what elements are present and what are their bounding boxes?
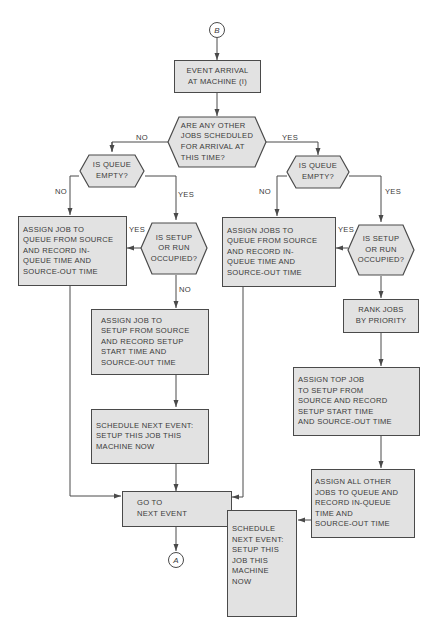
decision-queue-empty-right: IS QUEUE EMPTY? bbox=[286, 155, 350, 189]
decision-other-jobs-text: ARE ANY OTHER JOBS SCHEDULED FOR ARRIVAL… bbox=[181, 121, 253, 163]
node-assign-job-setup-text: ASSIGN JOB TO SETUP FROM SOURCE AND RECO… bbox=[96, 316, 190, 369]
node-assign-jobs-queue-text: ASSIGN JOBS TO QUEUE FROM SOURCE AND REC… bbox=[227, 226, 317, 279]
connector-a-label: A bbox=[173, 556, 178, 565]
label-yes: YES bbox=[338, 225, 354, 234]
decision-setup-left-text: IS SETUP OR RUN OCCUPIED? bbox=[151, 233, 198, 265]
label-no: NO bbox=[259, 187, 271, 196]
node-assign-job-queue-text: ASSIGN JOB TO QUEUE FROM SOURCE AND RECO… bbox=[23, 225, 113, 278]
decision-queue-empty-right-text: IS QUEUE EMPTY? bbox=[299, 161, 337, 182]
node-assign-job-setup: ASSIGN JOB TO SETUP FROM SOURCE AND RECO… bbox=[91, 309, 209, 375]
label-yes: YES bbox=[178, 190, 194, 199]
node-assign-top-job: ASSIGN TOP JOB TO SETUP FROM SOURCE AND … bbox=[293, 367, 420, 436]
connector-b-label: B bbox=[214, 26, 219, 35]
node-event-arrival-text: EVENT ARRIVAL AT MACHINE (I) bbox=[186, 66, 248, 87]
label-no: NO bbox=[179, 285, 191, 294]
node-schedule-right: SCHEDULE NEXT EVENT: SETUP THIS JOB THIS… bbox=[227, 510, 297, 617]
node-schedule-left: SCHEDULE NEXT EVENT: SETUP THIS JOB THIS… bbox=[91, 409, 209, 464]
connector-b: B bbox=[209, 22, 225, 38]
node-event-arrival: EVENT ARRIVAL AT MACHINE (I) bbox=[174, 60, 261, 93]
connector-a: A bbox=[168, 552, 184, 568]
node-assign-jobs-queue: ASSIGN JOBS TO QUEUE FROM SOURCE AND REC… bbox=[222, 217, 336, 287]
node-schedule-right-text: SCHEDULE NEXT EVENT: SETUP THIS JOB THIS… bbox=[232, 524, 284, 588]
label-no: NO bbox=[55, 187, 67, 196]
decision-queue-empty-left-text: IS QUEUE EMPTY? bbox=[93, 160, 131, 181]
node-go-next-event: GO TO NEXT EVENT bbox=[122, 491, 232, 527]
decision-setup-left: IS SETUP OR RUN OCCUPIED? bbox=[140, 222, 208, 275]
node-rank-jobs: RANK JOBS BY PRIORITY bbox=[343, 299, 419, 333]
node-rank-jobs-text: RANK JOBS BY PRIORITY bbox=[356, 305, 407, 326]
node-schedule-left-text: SCHEDULE NEXT EVENT: SETUP THIS JOB THIS… bbox=[96, 421, 193, 453]
decision-other-jobs: ARE ANY OTHER JOBS SCHEDULED FOR ARRIVAL… bbox=[167, 116, 267, 168]
node-go-next-event-text: GO TO NEXT EVENT bbox=[137, 498, 187, 519]
label-yes: YES bbox=[385, 187, 401, 196]
label-yes: YES bbox=[282, 133, 298, 142]
label-no: NO bbox=[136, 133, 148, 142]
decision-setup-right-text: IS SETUP OR RUN OCCUPIED? bbox=[358, 234, 405, 266]
node-assign-all-other: ASSIGN ALL OTHER JOBS TO QUEUE AND RECOR… bbox=[311, 469, 415, 538]
decision-setup-right: IS SETUP OR RUN OCCUPIED? bbox=[347, 224, 415, 276]
label-yes: YES bbox=[129, 225, 145, 234]
decision-queue-empty-left: IS QUEUE EMPTY? bbox=[79, 154, 145, 188]
node-assign-job-queue: ASSIGN JOB TO QUEUE FROM SOURCE AND RECO… bbox=[18, 216, 127, 286]
node-assign-top-job-text: ASSIGN TOP JOB TO SETUP FROM SOURCE AND … bbox=[298, 375, 392, 428]
node-assign-all-other-text: ASSIGN ALL OTHER JOBS TO QUEUE AND RECOR… bbox=[315, 477, 398, 530]
